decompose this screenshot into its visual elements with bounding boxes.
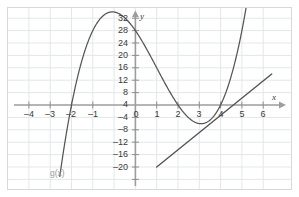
x-axis-arrow: [279, 102, 286, 109]
x-tick-label-2: 2: [172, 110, 184, 119]
linear-function-line: [157, 74, 272, 167]
x-tick-label-neg3: –3: [41, 110, 59, 119]
y-tick-label-16: 16: [108, 63, 128, 72]
y-tick-label-8: 8: [108, 88, 128, 97]
y-axis-label: y: [140, 11, 144, 21]
x-tick-label-neg1: –1: [84, 110, 102, 119]
y-tick-label-12: 12: [108, 76, 128, 85]
y-tick-label-neg16: –16: [103, 150, 128, 159]
coordinate-plane: [0, 0, 299, 197]
x-tick-label-3: 3: [193, 110, 205, 119]
x-tick-label-0: 0: [130, 110, 142, 119]
y-tick-label-32: 32: [108, 14, 128, 23]
y-axis: [132, 11, 139, 187]
vertical-gridlines: [29, 8, 263, 189]
y-tick-label-28: 28: [108, 26, 128, 35]
y-tick-label-24: 24: [108, 39, 128, 48]
y-tick-label-neg8: –8: [106, 125, 128, 134]
x-tick-label-neg2: –2: [62, 110, 80, 119]
graph-figure: 32 28 24 20 16 12 8 4 –4 –8 –12 –16 –20 …: [0, 0, 299, 197]
y-tick-label-neg12: –12: [103, 138, 128, 147]
x-tick-label-neg4: –4: [20, 110, 38, 119]
y-tick-label-20: 20: [108, 51, 128, 60]
x-tick-label-1: 1: [151, 110, 163, 119]
y-tick-label-4: 4: [108, 100, 128, 109]
x-tick-label-4: 4: [215, 110, 227, 119]
y-axis-arrow: [132, 11, 139, 18]
y-tick-label-neg20: –20: [103, 163, 128, 172]
y-tick-label-neg4: –4: [106, 113, 128, 122]
x-axis: [14, 102, 286, 109]
x-axis-label: x: [272, 92, 276, 102]
x-tick-label-5: 5: [236, 110, 248, 119]
function-label-gx: g(x): [50, 168, 65, 178]
cubic-curve-gx: [60, 6, 247, 176]
x-tick-label-6: 6: [257, 110, 269, 119]
